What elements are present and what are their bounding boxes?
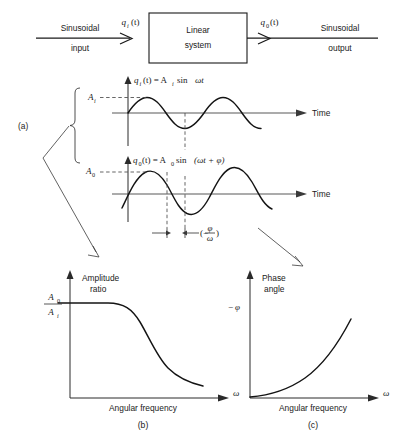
- panel-b-label: (b): [138, 420, 149, 430]
- phase-y-label-phi: φ: [235, 302, 240, 312]
- grouping-brace: [70, 88, 80, 163]
- phase-dim-right-arrow: [182, 231, 187, 236]
- svg-text:0: 0: [266, 22, 269, 29]
- amplitude-y-axis-label: A 0 A i: [44, 292, 62, 319]
- amplitude-y-numerator-sub: 0: [57, 297, 60, 304]
- phase-title-line2: angle: [264, 284, 285, 294]
- brace-shape: [70, 88, 80, 163]
- input-time-axis-label: Time: [312, 108, 331, 118]
- svg-text:(t) = A: (t) = A: [142, 155, 167, 165]
- phase-shift-numerator: φ: [208, 223, 213, 233]
- input-waveform-plot: A i q i (t) = A i sin ωt Time: [87, 75, 331, 150]
- block-label-line2: system: [185, 40, 212, 50]
- block-label-line1: Linear: [186, 25, 209, 35]
- phase-title-line1: Phase: [262, 273, 286, 283]
- output-label-line1: Sinusoidal: [321, 23, 360, 33]
- leader-arrow-phase: [292, 256, 303, 266]
- phase-x-axis-arrow: [368, 395, 379, 402]
- figure-sinusoidal-transfer-function: Sinusoidal input Linear system Sinusoida…: [0, 0, 414, 435]
- amplitude-x-axis-label: Angular frequency: [109, 403, 178, 413]
- phase-x-axis-label: Angular frequency: [279, 403, 348, 413]
- amplitude-title-line1: Amplitude: [82, 273, 120, 283]
- phase-x-axis-symbol: ω: [383, 388, 389, 398]
- amplitude-y-numerator: A: [47, 292, 54, 302]
- block-diagram: Sinusoidal input Linear system Sinusoida…: [36, 13, 378, 63]
- svg-text:A: A: [87, 92, 94, 102]
- svg-text:0: 0: [92, 171, 95, 178]
- phase-y-axis-label: − φ: [228, 302, 240, 312]
- output-sine-curve: [122, 167, 272, 214]
- output-label-line2: output: [328, 43, 352, 53]
- svg-text:sin: sin: [177, 75, 188, 85]
- phase-y-axis-arrow: [247, 270, 254, 279]
- svg-text:A: A: [85, 166, 92, 176]
- leader-to-amplitude-plot: [43, 126, 96, 252]
- svg-text:ωt: ωt: [195, 75, 204, 85]
- amplitude-ratio-curve: [58, 303, 203, 386]
- svg-text:(ωt + φ): (ωt + φ): [194, 155, 224, 165]
- output-amplitude-label: A 0: [85, 166, 95, 178]
- amplitude-y-denominator-sub: i: [57, 312, 59, 319]
- phase-angle-plot: Phase angle − φ Angular frequency ω (c): [228, 270, 389, 430]
- svg-text:(t): (t): [270, 17, 279, 27]
- svg-text:q: q: [133, 155, 138, 165]
- amplitude-ratio-plot: Amplitude ratio A 0 A i Angular frequenc…: [44, 270, 239, 430]
- svg-text:i: i: [94, 97, 96, 104]
- svg-text:(t) = A: (t) = A: [143, 75, 168, 85]
- panel-a-label: (a): [18, 121, 28, 131]
- input-amplitude-label: A i: [87, 92, 96, 104]
- phase-shift-denominator: ω: [207, 233, 213, 243]
- input-label-line1: Sinusoidal: [61, 23, 100, 33]
- phase-y-label-minus: −: [228, 302, 233, 312]
- output-waveform-plot: A 0 q 0 (t) = A 0 sin (ωt + φ) Time (− φ…: [85, 155, 331, 243]
- amplitude-x-axis-symbol: ω: [233, 388, 239, 398]
- svg-text:(t): (t): [131, 17, 140, 27]
- leader-to-phase-plot: [258, 228, 300, 262]
- leader-arrow-amplitude: [88, 246, 99, 257]
- input-equation: q i (t) = A i sin ωt: [134, 75, 204, 87]
- svg-text:sin: sin: [176, 155, 187, 165]
- amplitude-y-axis-arrow: [67, 270, 74, 279]
- input-label-line2: input: [71, 43, 90, 53]
- amplitude-x-axis-arrow: [218, 395, 229, 402]
- phase-shift-close-paren: ): [216, 228, 219, 238]
- input-y-axis-arrow: [125, 76, 132, 84]
- amplitude-y-denominator: A: [47, 307, 54, 317]
- linear-system-block: [149, 13, 247, 63]
- svg-text:q: q: [134, 75, 139, 85]
- output-equation: q 0 (t) = A 0 sin (ωt + φ): [133, 155, 224, 167]
- svg-text:0: 0: [171, 160, 174, 167]
- input-signal-symbol: q i (t): [122, 17, 140, 29]
- figure-canvas: Sinusoidal input Linear system Sinusoida…: [0, 0, 414, 435]
- input-x-axis-arrow: [296, 110, 307, 117]
- amplitude-title-line2: ratio: [90, 284, 107, 294]
- svg-text:i: i: [127, 22, 129, 29]
- phase-angle-curve: [250, 319, 351, 397]
- output-signal-symbol: q 0 (t): [261, 17, 279, 29]
- svg-text:q: q: [122, 17, 127, 27]
- output-time-axis-label: Time: [312, 189, 331, 199]
- panel-c-label: (c): [308, 420, 318, 430]
- output-y-axis-arrow: [125, 156, 132, 164]
- svg-text:i: i: [140, 80, 142, 87]
- svg-text:q: q: [261, 17, 266, 27]
- output-x-axis-arrow: [296, 191, 307, 198]
- phase-shift-dimension: (− φ ω ): [152, 223, 219, 243]
- svg-text:i: i: [172, 80, 174, 87]
